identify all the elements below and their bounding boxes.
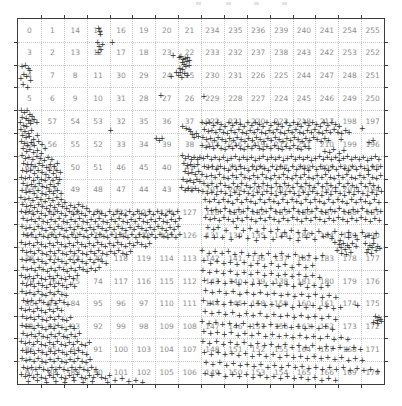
hilbert-cell-label: 100 xyxy=(110,338,133,361)
hilbert-index-grid: 0114151619202123423523623924024125425532… xyxy=(18,19,384,384)
hilbert-cell-label: 199 xyxy=(338,133,361,156)
hilbert-cell-label: 130 xyxy=(224,224,247,247)
hilbert-cell-label: 221 xyxy=(224,110,247,133)
hilbert-cell-label: 201 xyxy=(201,179,224,202)
hilbert-cell-label: 103 xyxy=(132,338,155,361)
clipped-title-fragment xyxy=(226,2,231,5)
hilbert-cell-label: 114 xyxy=(155,247,178,270)
hilbert-cell-label: 90 xyxy=(87,361,110,384)
hilbert-cell-label: 65 xyxy=(18,224,41,247)
hilbert-cell-label: 211 xyxy=(293,133,316,156)
hilbert-cell-label: 225 xyxy=(270,65,293,88)
hilbert-cell-label: 215 xyxy=(224,156,247,179)
hilbert-cell-label: 110 xyxy=(155,293,178,316)
tick-right xyxy=(384,316,388,317)
hilbert-cell-label: 19 xyxy=(132,19,155,42)
hilbert-cell-label: 142 xyxy=(201,247,224,270)
tick-right xyxy=(384,293,388,294)
tick-right xyxy=(384,65,388,66)
hilbert-cell-label: 24 xyxy=(155,65,178,88)
hilbert-cell-label: 167 xyxy=(315,338,338,361)
hilbert-cell-label: 148 xyxy=(201,338,224,361)
hilbert-cell-label: 183 xyxy=(315,247,338,270)
hilbert-cell-label: 21 xyxy=(178,19,201,42)
hilbert-cell-label: 16 xyxy=(110,19,133,42)
hilbert-cell-label: 143 xyxy=(201,270,224,293)
tick-right xyxy=(384,338,388,339)
hilbert-cell-label: 77 xyxy=(41,247,64,270)
hilbert-cell-label: 66 xyxy=(41,224,64,247)
hilbert-cell-label: 26 xyxy=(178,87,201,110)
hilbert-cell-label: 117 xyxy=(110,270,133,293)
hilbert-cell-label: 218 xyxy=(293,110,316,133)
hilbert-cell-label: 29 xyxy=(132,65,155,88)
hilbert-cell-label: 86 xyxy=(18,338,41,361)
hilbert-cell-label: 27 xyxy=(155,87,178,110)
tick-bottom xyxy=(338,384,339,388)
hilbert-cell-label: 94 xyxy=(64,338,87,361)
hilbert-cell-label: 145 xyxy=(224,293,247,316)
hilbert-cell-label: 153 xyxy=(247,361,270,384)
hilbert-cell-label: 161 xyxy=(315,293,338,316)
hilbert-cell-label: 62 xyxy=(41,179,64,202)
hilbert-cell-label: 14 xyxy=(64,19,87,42)
hilbert-cell-label: 157 xyxy=(247,316,270,339)
hilbert-cell-label: 141 xyxy=(224,247,247,270)
hilbert-cell-label: 78 xyxy=(18,247,41,270)
hilbert-cell-label: 91 xyxy=(87,338,110,361)
hilbert-cell-label: 134 xyxy=(270,224,293,247)
hilbert-cell-label: 104 xyxy=(155,338,178,361)
hilbert-cell-label: 177 xyxy=(361,247,384,270)
hilbert-cell-label: 147 xyxy=(201,316,224,339)
top-clipped-artifact xyxy=(0,0,402,9)
hilbert-cell-label: 57 xyxy=(41,110,64,133)
hilbert-cell-label: 136 xyxy=(247,247,270,270)
hilbert-cell-label: 47 xyxy=(110,179,133,202)
hilbert-cell-label: 112 xyxy=(178,270,201,293)
hilbert-cell-label: 171 xyxy=(361,338,384,361)
hilbert-cell-label: 200 xyxy=(338,156,361,179)
hilbert-cell-label: 87 xyxy=(18,361,41,384)
hilbert-cell-label: 76 xyxy=(41,270,64,293)
hilbert-cell-label: 72 xyxy=(64,247,87,270)
hilbert-cell-label: 44 xyxy=(132,179,155,202)
hilbert-cell-label: 250 xyxy=(361,87,384,110)
hilbert-cell-label: 208 xyxy=(293,156,316,179)
hilbert-cell-label: 244 xyxy=(293,65,316,88)
hilbert-cell-label: 119 xyxy=(132,247,155,270)
hilbert-cell-label: 70 xyxy=(87,224,110,247)
hilbert-cell-label: 151 xyxy=(224,338,247,361)
hilbert-cell-label: 109 xyxy=(155,316,178,339)
hilbert-cell-label: 7 xyxy=(41,65,64,88)
tick-right xyxy=(384,133,388,134)
hilbert-cell-label: 11 xyxy=(87,65,110,88)
hilbert-cell-label: 159 xyxy=(270,293,293,316)
clipped-title-fragment xyxy=(254,2,259,5)
tick-right xyxy=(384,270,388,271)
hilbert-cell-label: 188 xyxy=(338,202,361,225)
hilbert-cell-label: 128 xyxy=(201,202,224,225)
hilbert-cell-label: 156 xyxy=(270,316,293,339)
hilbert-cell-label: 61 xyxy=(41,156,64,179)
tick-right xyxy=(384,156,388,157)
hilbert-cell-label: 179 xyxy=(338,270,361,293)
hilbert-cell-label: 166 xyxy=(315,361,338,384)
tick-bottom xyxy=(155,384,156,388)
hilbert-cell-label: 102 xyxy=(132,361,155,384)
hilbert-cell-label: 22 xyxy=(178,42,201,65)
hilbert-cell-label: 20 xyxy=(155,19,178,42)
hilbert-cell-label: 222 xyxy=(201,110,224,133)
hilbert-cell-label: 237 xyxy=(247,42,270,65)
hilbert-cell-label: 241 xyxy=(315,19,338,42)
hilbert-cell-label: 133 xyxy=(270,202,293,225)
hilbert-cell-label: 3 xyxy=(18,42,41,65)
hilbert-cell-label: 135 xyxy=(247,224,270,247)
hilbert-cell-label: 95 xyxy=(87,293,110,316)
hilbert-cell-label: 146 xyxy=(224,316,247,339)
hilbert-cell-label: 38 xyxy=(178,133,201,156)
hilbert-cell-label: 81 xyxy=(18,316,41,339)
hilbert-cell-label: 49 xyxy=(64,179,87,202)
tick-bottom xyxy=(315,384,316,388)
hilbert-cell-label: 56 xyxy=(41,133,64,156)
hilbert-cell-label: 96 xyxy=(110,293,133,316)
